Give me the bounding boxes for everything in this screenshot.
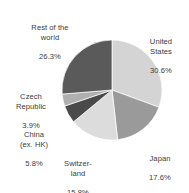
- slice-label-rest-of-world-name: Rest of the world: [31, 23, 68, 41]
- slice-label-japan-name: Japan: [150, 154, 171, 163]
- slice-label-japan-value: 17.6%: [149, 173, 171, 182]
- slice-label-switzerland-value: 15.8%: [67, 188, 89, 193]
- slice-label-czech-republic-value: 3.9%: [22, 121, 40, 130]
- slice-label-china-value: 5.8%: [25, 159, 43, 168]
- slice-label-switzerland-name: Switzer- land: [64, 159, 92, 177]
- slice-label-united-states-name: United States: [150, 37, 172, 55]
- slice-label-japan: Japan 17.6%: [136, 145, 184, 183]
- slice-label-rest-of-world-value: 26.3%: [39, 52, 61, 61]
- slice-label-united-states: United States 30.6%: [137, 28, 185, 75]
- pie-chart-figure: United States 30.6% Japan 17.6% Switzer-…: [0, 0, 189, 193]
- slice-label-china-name: China (ex. HK): [20, 130, 48, 148]
- slice-label-united-states-value: 30.6%: [150, 66, 172, 75]
- slice-label-czech-republic: Czech Republic 3.9%: [4, 83, 58, 130]
- slice-label-rest-of-world: Rest of the world 26.3%: [14, 14, 86, 61]
- slice-label-czech-republic-name: Czech Republic: [16, 92, 46, 110]
